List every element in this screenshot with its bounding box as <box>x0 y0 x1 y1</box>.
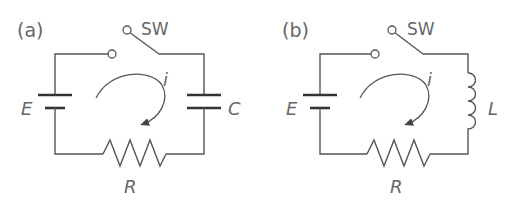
switch-open-terminal <box>371 50 379 58</box>
panel-a-label: (a) <box>17 19 43 41</box>
current-label-i: i <box>163 69 168 90</box>
resistor-label-r: R <box>390 176 403 197</box>
wire-top-left <box>55 54 108 95</box>
current-direction-arrow-icon <box>96 74 165 124</box>
current-direction-arrow-icon <box>360 74 429 124</box>
wire-bottom-left <box>320 108 367 154</box>
wire-bottom-left <box>55 108 103 154</box>
panel-b-label: (b) <box>282 19 309 41</box>
switch-label: SW <box>141 19 169 39</box>
switch-open-terminal <box>108 50 116 58</box>
battery-label-e: E <box>21 98 33 119</box>
wire-bottom-right <box>166 108 204 154</box>
wire-top-left <box>320 54 371 95</box>
switch-pivot-terminal <box>388 26 396 34</box>
battery-label-e: E <box>286 98 298 119</box>
capacitor-label-c: C <box>228 98 241 119</box>
panel-a-rc-circuit: (a) E SW C R i <box>17 19 241 197</box>
resistor <box>103 140 166 166</box>
resistor <box>367 140 430 166</box>
inductor-coil <box>430 73 476 154</box>
inductor-label-l: L <box>488 98 498 119</box>
switch-pivot-terminal <box>123 26 131 34</box>
switch-label: SW <box>407 19 435 39</box>
circuit-diagrams: (a) E SW C R i (b) E <box>0 0 507 210</box>
resistor-label-r: R <box>124 176 137 197</box>
current-label-i: i <box>427 69 432 90</box>
panel-b-rl-circuit: (b) E SW L R i <box>282 19 498 197</box>
